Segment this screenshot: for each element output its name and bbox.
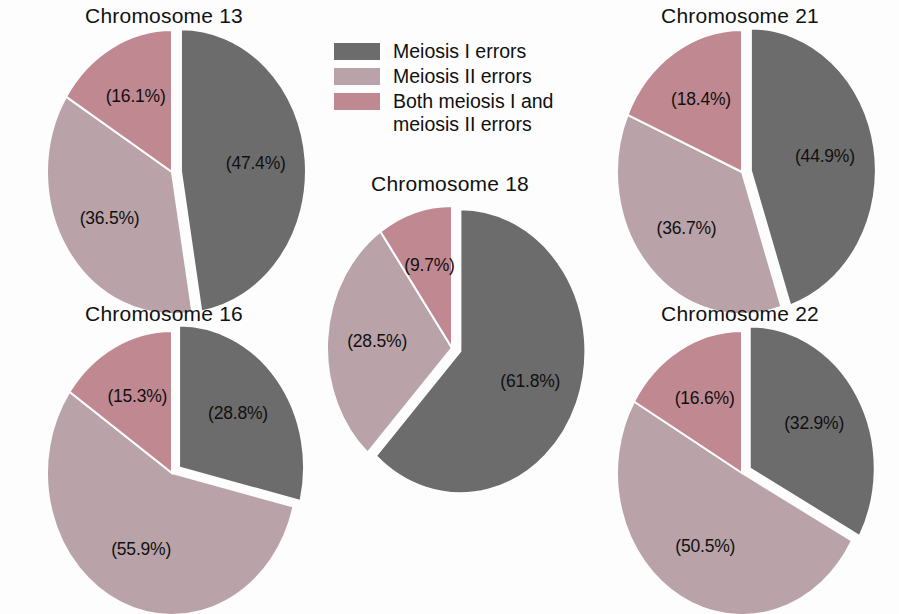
pie-slice-label: (28.8%) xyxy=(208,403,268,423)
pie-slice-label: (18.4%) xyxy=(671,89,731,109)
pie-chart-chromosome-21: (44.9%)(36.7%)(18.4%) xyxy=(590,2,890,302)
pie-chart-chromosome-13: (47.4%)(36.5%)(16.1%) xyxy=(14,2,314,302)
legend-item: Meiosis I errors xyxy=(334,40,574,63)
legend-swatch-meiosis-i xyxy=(334,43,380,60)
legend-label: Meiosis II errors xyxy=(393,65,532,88)
legend-label: Meiosis I errors xyxy=(393,40,526,63)
pie-chart-chromosome-16: (28.8%)(55.9%)(15.3%) xyxy=(14,300,314,600)
legend-label: Both meiosis I and meiosis II errors xyxy=(393,90,553,136)
pie-panel-chromosome-22: Chromosome 22(32.9%)(50.5%)(16.6%) xyxy=(590,300,890,600)
pie-panel-chromosome-13: Chromosome 13(47.4%)(36.5%)(16.1%) xyxy=(14,2,314,302)
pie-chart-chromosome-22: (32.9%)(50.5%)(16.6%) xyxy=(590,300,890,600)
legend-item: Both meiosis I and meiosis II errors xyxy=(334,90,574,136)
pie-slice-label: (47.4%) xyxy=(226,153,286,173)
pie-slice-label: (15.3%) xyxy=(107,386,167,406)
pie-chart-figure: Meiosis I errors Meiosis II errors Both … xyxy=(0,0,899,614)
pie-slice-label: (44.9%) xyxy=(795,146,855,166)
pie-panel-chromosome-21: Chromosome 21(44.9%)(36.7%)(18.4%) xyxy=(590,2,890,302)
pie-slice-label: (55.9%) xyxy=(111,539,171,559)
pie-slice-label: (16.6%) xyxy=(675,388,735,408)
legend-swatch-both xyxy=(334,93,380,110)
pie-slice-label: (32.9%) xyxy=(784,413,844,433)
pie-slice-label: (28.5%) xyxy=(347,331,407,351)
pie-chart-chromosome-18: (61.8%)(28.5%)(9.7%) xyxy=(300,170,600,470)
pie-panel-chromosome-16: Chromosome 16(28.8%)(55.9%)(15.3%) xyxy=(14,300,314,600)
pie-slice-label: (50.5%) xyxy=(675,536,735,556)
pie-slice-label: (36.5%) xyxy=(80,208,140,228)
pie-slice-label: (36.7%) xyxy=(657,218,717,238)
legend: Meiosis I errors Meiosis II errors Both … xyxy=(334,40,574,138)
pie-slice-label: (61.8%) xyxy=(500,371,560,391)
pie-panel-chromosome-18: Chromosome 18(61.8%)(28.5%)(9.7%) xyxy=(300,170,600,470)
legend-item: Meiosis II errors xyxy=(334,65,574,88)
legend-swatch-meiosis-ii xyxy=(334,68,380,85)
pie-slice-label: (9.7%) xyxy=(404,255,454,275)
pie-slice-label: (16.1%) xyxy=(106,86,166,106)
